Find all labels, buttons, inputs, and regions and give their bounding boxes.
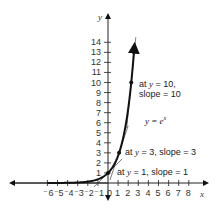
y-tick-label: 14: [91, 37, 101, 47]
y-tick-label: 2: [96, 158, 101, 168]
y-axis-label: y: [97, 12, 102, 22]
y-tick-label: 3: [96, 148, 101, 158]
y-tick-label: 10: [91, 78, 101, 88]
x-tick-label: 2: [125, 188, 130, 198]
x-axis-label: x: [199, 189, 204, 199]
curve-label: y = ex: [144, 115, 167, 126]
y-tick-label: 7: [96, 108, 101, 118]
y-tick-label: 1: [96, 168, 101, 178]
x-tick-label: ⁻2: [84, 188, 94, 198]
x-tick-label: ⁻4: [64, 188, 74, 198]
y-tick-label: 4: [96, 138, 101, 148]
x-tick-label: 7: [176, 188, 181, 198]
annotation-y3: at y = 3, slope = 3: [125, 147, 196, 157]
x-tick-label: ⁻6: [43, 188, 53, 198]
y-tick-label: 8: [96, 98, 101, 108]
y-tick-label: 9: [96, 88, 101, 98]
x-tick-label: 3: [135, 188, 140, 198]
annotation-slope10: slope = 10: [139, 89, 181, 99]
x-tick-label: ⁻3: [74, 188, 84, 198]
y-tick-label: 13: [91, 47, 101, 57]
exponential-chart: ⁻6⁻5⁻4⁻3⁻2⁻1012345678 123456789101112131…: [0, 0, 220, 219]
y-tick-label: 5: [96, 128, 101, 138]
x-tick-label: 1: [115, 188, 120, 198]
y-tick-label: 12: [91, 57, 101, 67]
x-tick-label: 4: [145, 188, 150, 198]
x-tick-label: ⁻5: [54, 188, 64, 198]
y-tick-label: 6: [96, 118, 101, 128]
annotation-y1: at y = 1, slope = 1: [117, 167, 188, 177]
x-tick-label: 5: [156, 188, 161, 198]
y-tick-label: 11: [92, 67, 101, 77]
x-tick-label: 6: [166, 188, 171, 198]
x-tick-label: ⁻1: [94, 188, 104, 198]
annotation-y10: at y = 10,: [139, 79, 176, 89]
x-tick-label: 0: [107, 188, 112, 198]
x-tick-label: 8: [186, 188, 191, 198]
